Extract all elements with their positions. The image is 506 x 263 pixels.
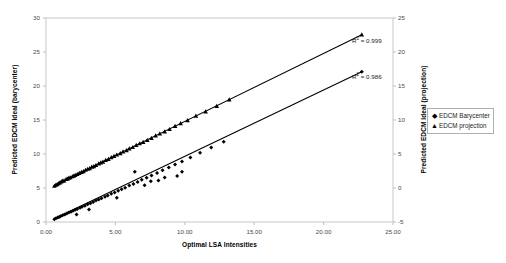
diamond-marker-icon: ◆ (430, 111, 439, 121)
plot-frame (46, 18, 393, 222)
legend-label-projection: EDCM projection (439, 121, 487, 131)
triangle-marker-icon: ▲ (430, 121, 439, 131)
r2-value: = 0.986 (359, 73, 382, 80)
legend: ◆ EDCM Barycenter ▲ EDCM projection (427, 108, 494, 134)
r2-annotation-projection: R2 = 0.999 (352, 36, 382, 44)
r2-annotation-barycenter: R2 = 0.986 (352, 72, 382, 80)
r2-value: = 0.999 (359, 37, 382, 44)
chart-container: Predicted EDCM Ideal (barycenter) Predic… (0, 0, 506, 263)
legend-item-barycenter: ◆ EDCM Barycenter (430, 111, 490, 121)
legend-label-barycenter: EDCM Barycenter (439, 111, 490, 121)
legend-item-projection: ▲ EDCM projection (430, 121, 490, 131)
